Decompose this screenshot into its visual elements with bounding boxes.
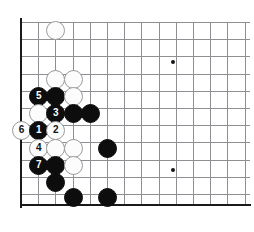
board-edge-left xyxy=(20,18,22,208)
move-number-label: 7 xyxy=(36,160,42,170)
stone-white-w-a xyxy=(46,70,65,89)
move-number-label: 3 xyxy=(53,108,59,118)
move-stone-2: 2 xyxy=(46,121,65,140)
stone-black-b-d xyxy=(98,139,117,158)
grid-line-vertical xyxy=(210,22,211,204)
stone-white-w-top xyxy=(46,21,65,40)
stone-black-b-c xyxy=(81,104,100,123)
stone-white-w-f xyxy=(64,139,83,158)
stone-black-b-f xyxy=(46,173,65,192)
move-stone-5: 5 xyxy=(29,87,48,106)
grid-line-vertical xyxy=(245,22,246,204)
stone-white-w-b xyxy=(64,70,83,89)
hoshi-upper-right-icon xyxy=(171,60,175,64)
move-stone-1: 1 xyxy=(29,121,48,140)
stone-black-b-b xyxy=(64,104,83,123)
grid-line-vertical xyxy=(107,22,108,204)
stone-white-w-d xyxy=(29,104,48,123)
move-stone-4: 4 xyxy=(29,139,48,158)
stone-white-w-c xyxy=(64,87,83,106)
move-number-label: 6 xyxy=(19,125,25,135)
move-stone-7: 7 xyxy=(29,156,48,175)
move-number-label: 4 xyxy=(36,143,42,153)
board-edge-bottom xyxy=(20,204,251,206)
grid-line-vertical xyxy=(124,22,125,204)
move-stone-6: 6 xyxy=(12,121,31,140)
stone-black-b-a xyxy=(46,87,65,106)
stone-black-b-g xyxy=(64,188,83,207)
goban: 5361247 xyxy=(0,0,254,232)
hoshi-lower-right-icon xyxy=(171,168,175,172)
go-board-diagram: 5361247 xyxy=(0,0,254,232)
grid-line-vertical xyxy=(227,22,228,204)
grid-line-vertical xyxy=(159,22,160,204)
stone-white-w-e xyxy=(46,139,65,158)
stone-white-w-g xyxy=(64,156,83,175)
stone-black-b-e xyxy=(46,156,65,175)
move-number-label: 2 xyxy=(53,125,59,135)
grid-line-vertical xyxy=(141,22,142,204)
move-stone-3: 3 xyxy=(46,104,65,123)
move-number-label: 5 xyxy=(36,91,42,101)
move-number-label: 1 xyxy=(36,125,42,135)
grid-line-vertical xyxy=(176,22,177,204)
grid-line-vertical xyxy=(193,22,194,204)
